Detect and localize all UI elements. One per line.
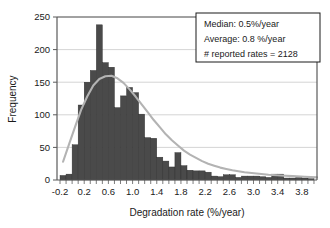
x-tick-label: 0.6 — [102, 186, 115, 197]
histogram-bar — [72, 145, 78, 180]
histogram-bar — [229, 175, 235, 180]
histogram-bar — [139, 114, 145, 180]
histogram-bar — [145, 138, 151, 180]
y-tick-label: 0 — [45, 174, 50, 185]
y-tick-label: 100 — [34, 109, 50, 120]
y-tick-label: 200 — [34, 44, 50, 55]
x-tick-label: 3.0 — [247, 186, 260, 197]
histogram-bar — [157, 157, 163, 180]
average-stat: Average: 0.8 %/year — [204, 34, 285, 44]
x-tick-label: -0.2 — [52, 186, 68, 197]
x-axis-minor-ticks — [60, 180, 314, 184]
histogram-bar — [169, 167, 175, 180]
x-tick-label: 1.8 — [174, 186, 187, 197]
x-axis-tick-labels: -0.20.20.61.01.41.82.22.63.03.43.8 — [52, 186, 309, 197]
y-axis-title: Frequency — [7, 75, 18, 122]
degradation-rate-histogram: 050100150200250 -0.20.20.61.01.41.82.22.… — [0, 0, 330, 228]
histogram-bar — [108, 67, 114, 180]
histogram-bar — [205, 172, 211, 180]
histogram-figure: 050100150200250 -0.20.20.61.01.41.82.22.… — [0, 0, 330, 228]
y-tick-label: 50 — [39, 142, 50, 153]
histogram-bar — [193, 171, 199, 180]
x-tick-label: 2.2 — [199, 186, 212, 197]
x-tick-label: 1.0 — [126, 186, 139, 197]
x-tick-label: 1.4 — [150, 186, 163, 197]
stats-annotation-box: Median: 0.5%/year Average: 0.8 %/year # … — [196, 13, 320, 62]
x-axis-title: Degradation rate (%/year) — [129, 207, 244, 218]
histogram-bar — [127, 87, 133, 180]
histogram-bar — [96, 25, 102, 180]
x-tick-label: 2.6 — [223, 186, 236, 197]
histogram-bar — [102, 63, 108, 180]
histogram-bar — [133, 93, 139, 180]
histogram-bar — [181, 166, 187, 180]
histogram-bar — [151, 138, 157, 180]
y-tick-label: 150 — [34, 77, 50, 88]
median-stat: Median: 0.5%/year — [204, 19, 279, 29]
histogram-bar — [66, 174, 72, 180]
x-tick-label: 3.4 — [271, 186, 284, 197]
x-tick-label: 0.2 — [78, 186, 91, 197]
histogram-bar — [120, 96, 126, 180]
histogram-bar — [199, 171, 205, 180]
y-axis-ticks: 050100150200250 — [34, 11, 57, 185]
histogram-bar — [114, 108, 120, 180]
histogram-bar — [60, 175, 66, 180]
histogram-bar — [223, 175, 229, 180]
histogram-bar — [163, 161, 169, 180]
y-tick-label: 250 — [34, 11, 50, 22]
reported-rates-stat: # reported rates = 2128 — [204, 49, 298, 59]
histogram-bar — [175, 153, 181, 180]
histogram-bar — [187, 170, 193, 180]
x-tick-label: 3.8 — [295, 186, 308, 197]
